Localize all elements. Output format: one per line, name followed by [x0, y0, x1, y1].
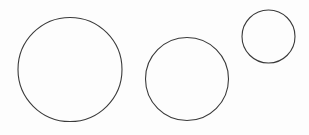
- small-circle: [242, 10, 295, 63]
- diagram-canvas: [0, 0, 309, 135]
- medium-circle: [146, 38, 229, 121]
- circles-diagram: [0, 0, 309, 135]
- large-circle: [18, 18, 122, 122]
